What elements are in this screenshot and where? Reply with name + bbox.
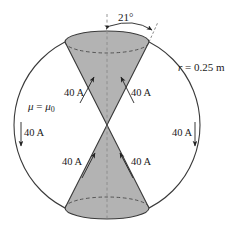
- mu-zero-subscript: 0: [51, 105, 55, 114]
- current-label-left: 40 A: [24, 128, 44, 139]
- current-label-lower-right: 40 A: [131, 157, 151, 168]
- cone-angle-label: 21°: [118, 12, 133, 23]
- diagram-canvas: [0, 0, 240, 242]
- physics-diagram: 21° r = 0.25 m μ = μ0 40 A 40 A 40 A 40 …: [0, 0, 240, 242]
- angle-extension-line: [149, 22, 158, 42]
- current-label-right: 40 A: [172, 128, 192, 139]
- mu-symbol: μ: [28, 100, 34, 112]
- angle-dimension-arc: [110, 23, 152, 30]
- permeability-label: μ = μ0: [28, 101, 55, 114]
- current-label-lower-left: 40 A: [62, 157, 82, 168]
- radius-value: 0.25: [194, 61, 213, 73]
- current-label-upper-left: 40 A: [64, 88, 84, 99]
- radius-unit: m: [216, 61, 225, 73]
- sphere-radius-label: r = 0.25 m: [178, 62, 225, 73]
- current-label-upper-right: 40 A: [131, 88, 151, 99]
